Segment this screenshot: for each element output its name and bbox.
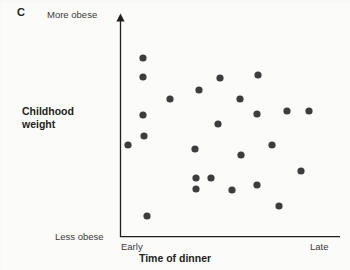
data-point	[253, 181, 260, 188]
data-point	[237, 151, 244, 158]
data-point	[166, 95, 173, 102]
x-axis-min-label: Early	[121, 241, 143, 252]
data-point	[216, 74, 223, 81]
y-axis-arrowhead	[116, 14, 124, 22]
data-point	[254, 71, 261, 78]
data-point	[305, 107, 312, 114]
data-point	[143, 212, 150, 219]
data-point	[268, 141, 275, 148]
figure-panel-c: C More obese Less obese Early Late Child…	[0, 0, 350, 270]
data-point	[140, 132, 147, 139]
data-points-layer	[124, 54, 312, 219]
y-axis-title: Childhood weight	[22, 105, 74, 131]
data-point	[253, 110, 260, 117]
y-axis-title-line1: Childhood	[22, 105, 74, 118]
data-point	[192, 174, 199, 181]
data-point	[139, 111, 146, 118]
data-point	[236, 95, 243, 102]
x-axis-max-label: Late	[310, 241, 329, 252]
data-point	[195, 86, 202, 93]
scatter-plot	[0, 0, 350, 270]
y-axis-min-label: Less obese	[55, 231, 104, 242]
data-point	[124, 141, 131, 148]
y-axis-title-line2: weight	[22, 118, 74, 131]
data-point	[214, 120, 221, 127]
data-point	[191, 145, 198, 152]
data-point	[192, 185, 199, 192]
data-point	[275, 202, 282, 209]
data-point	[139, 73, 146, 80]
data-point	[297, 167, 304, 174]
data-point	[283, 107, 290, 114]
y-axis	[116, 14, 124, 238]
data-point	[139, 54, 146, 61]
data-point	[228, 186, 235, 193]
y-axis-max-label: More obese	[47, 9, 97, 20]
x-axis-title: Time of dinner	[139, 252, 211, 265]
data-point	[207, 174, 214, 181]
